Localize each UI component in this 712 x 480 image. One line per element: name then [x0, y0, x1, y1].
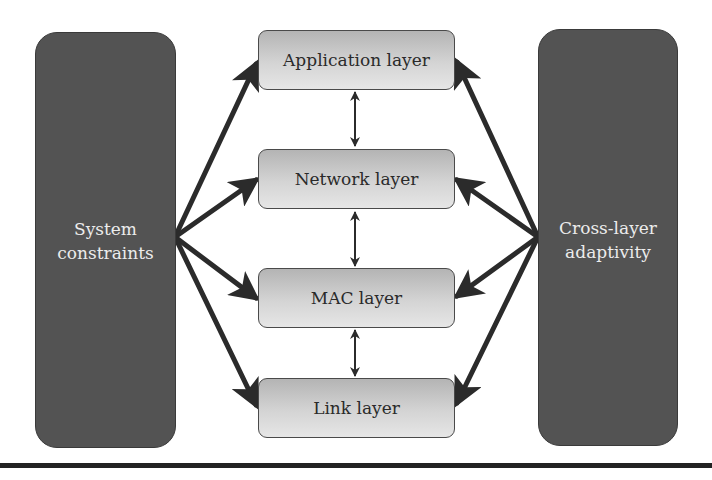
- mac-layer-box: MAC layer: [258, 268, 455, 328]
- network-layer-label: Network layer: [295, 169, 419, 189]
- network-layer-box: Network layer: [258, 149, 455, 209]
- system-constraints-label: System constraints: [36, 217, 175, 265]
- application-layer-label: Application layer: [283, 50, 430, 70]
- link-layer-label: Link layer: [313, 398, 400, 418]
- system-constraints-block: System constraints: [35, 32, 176, 448]
- right-fan-arrows: [457, 62, 538, 403]
- mac-layer-label: MAC layer: [311, 288, 402, 308]
- cross-layer-adaptivity-label: Cross-layer adaptivity: [539, 216, 677, 264]
- cross-layer-adaptivity-block: Cross-layer adaptivity: [538, 29, 678, 446]
- bottom-divider: [0, 463, 712, 468]
- link-layer-box: Link layer: [258, 378, 455, 438]
- left-fan-arrows: [175, 64, 256, 405]
- application-layer-box: Application layer: [258, 30, 455, 90]
